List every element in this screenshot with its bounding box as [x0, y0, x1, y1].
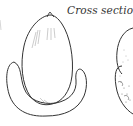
acorn-drawing: [0, 0, 133, 126]
nut-hatching: [32, 28, 55, 103]
acorn-tip: [47, 12, 54, 17]
cross-section-cup: [115, 66, 133, 114]
acorn-figure: Cross section: [0, 0, 133, 126]
acorn-nut: [22, 15, 73, 105]
cross-section-stipple: [120, 50, 131, 103]
acorn-cup: [7, 62, 87, 116]
cross-section-label: Cross section: [67, 4, 133, 16]
